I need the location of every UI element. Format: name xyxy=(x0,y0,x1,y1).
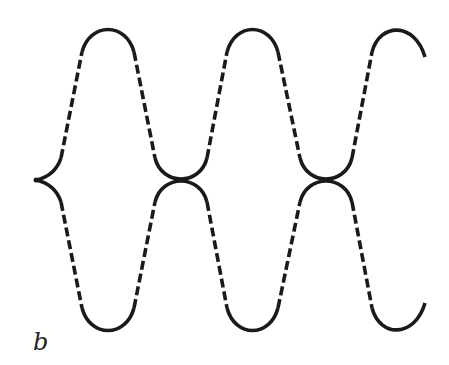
cusp-point xyxy=(34,178,39,183)
lower-curve xyxy=(36,180,425,331)
upper-curve xyxy=(36,30,425,181)
wave-diagram xyxy=(0,0,449,365)
figure-label: b xyxy=(33,328,48,356)
